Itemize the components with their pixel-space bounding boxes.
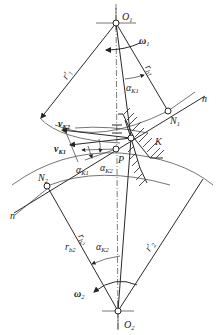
label-n2: N2 — [37, 172, 49, 184]
line-of-action — [14, 96, 205, 213]
line-of-action-b — [15, 188, 48, 215]
alpha-k1-arc — [88, 146, 92, 158]
r2-prime-line — [118, 179, 203, 311]
alpha-k1-top-arc — [125, 75, 144, 79]
r1-prime-line — [41, 23, 116, 118]
label-alpha-k1-top: αK1 — [126, 82, 139, 94]
label-r2-prime: r′2 — [142, 239, 157, 254]
pitch-circle-1-arc — [40, 118, 120, 143]
label-o1: O1 — [122, 11, 132, 23]
omega1-arc — [106, 43, 140, 50]
label-vk2: vK2 — [58, 118, 71, 130]
line-of-action-c — [168, 92, 195, 111]
vk2-vector — [62, 130, 131, 138]
point-n1 — [165, 108, 171, 114]
alpha-k2-arc — [99, 139, 100, 152]
point-p — [113, 146, 119, 152]
label-rb2-b: rb2 — [65, 241, 76, 253]
point-k — [128, 135, 134, 141]
alpha-k2-bottom-arc — [92, 256, 120, 264]
label-n-top: n — [202, 93, 207, 104]
o1-k-line — [116, 23, 131, 138]
point-o2 — [115, 308, 121, 314]
p-velocity — [82, 149, 116, 150]
base-circle-2-arc — [47, 175, 170, 186]
point-o1 — [113, 20, 119, 26]
label-vk1: vK1 — [54, 143, 66, 155]
label-alpha-k1-mid: αK1 — [76, 164, 89, 176]
gear-meshing-diagram: O1 O2 N1 N2 P K ω1 ω2 r′1 rb1 rb2 rb2 r′… — [0, 0, 223, 335]
label-n1: N1 — [169, 115, 180, 127]
label-omega2: ω2 — [74, 288, 85, 300]
vk1-vector — [70, 138, 131, 145]
label-rb2: rb2 — [75, 232, 91, 248]
label-alpha-k2-mid: αK2 — [100, 162, 114, 174]
label-rb1: rb1 — [142, 63, 158, 78]
label-p: P — [117, 154, 124, 165]
label-n-bottom: n — [10, 210, 15, 221]
omega2-arc — [94, 281, 137, 292]
label-k: K — [154, 136, 163, 147]
label-alpha-k2-bot: αK2 — [96, 241, 110, 253]
label-omega1: ω1 — [139, 35, 149, 47]
label-o2: O2 — [124, 319, 135, 331]
